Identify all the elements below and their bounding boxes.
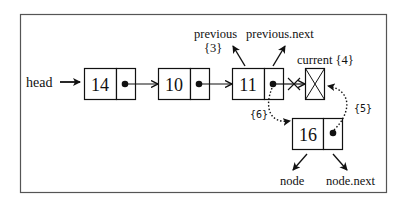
node-value: 16 <box>299 125 317 145</box>
previous-pointer-arrow <box>233 46 245 66</box>
step6-label: {6} <box>250 109 268 120</box>
linked-list-diagram: head 14 10 11 current {4} previous {3} p… <box>0 0 406 203</box>
step5-label: {5} <box>354 103 372 114</box>
previous-label: previous <box>194 27 237 41</box>
previous-next-label: previous.next <box>246 27 314 41</box>
current-label: current {4} <box>297 53 354 67</box>
previous-next-pointer-arrow <box>273 46 285 66</box>
node-label: node <box>280 174 305 188</box>
node-value: 10 <box>165 75 183 95</box>
node-pointer-arrow <box>293 154 307 170</box>
previous-step-label: {3} <box>204 41 222 55</box>
node-value: 14 <box>91 75 109 95</box>
node-next-pointer-arrow <box>333 154 347 170</box>
pointer-dot <box>330 130 337 137</box>
current-node <box>306 69 325 100</box>
head-label: head <box>26 75 52 90</box>
node-next-label: node.next <box>326 174 375 188</box>
node-16: 16 <box>293 119 343 150</box>
node-value: 11 <box>239 75 256 95</box>
